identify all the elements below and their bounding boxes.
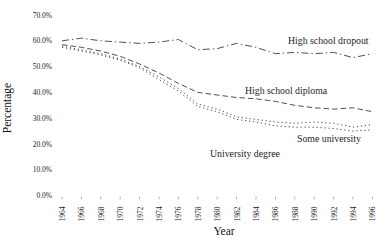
x-axis-title: Year (213, 225, 234, 237)
x-tick-label: 1990 (310, 206, 319, 221)
series-label-high-school-diploma: High school diploma (245, 85, 328, 96)
x-tick-label: 1994 (349, 206, 358, 221)
y-tick-label: 10.0% (33, 165, 52, 174)
series-label-university-degree: University degree (210, 148, 281, 159)
y-tick-label: 60.0% (33, 36, 52, 45)
x-tick-label: 1974 (155, 206, 164, 221)
chart-canvas: Percentage Year High school dropout High… (0, 0, 388, 242)
y-tick-label: 40.0% (33, 88, 52, 97)
y-tick-label: 20.0% (33, 140, 52, 149)
x-tick-label: 1992 (330, 206, 339, 221)
y-axis-title: Percentage (1, 83, 14, 133)
series-label-some-university: Some university (297, 133, 361, 144)
x-tick-label: 1988 (291, 206, 300, 221)
y-tick-label: 30.0% (33, 114, 52, 123)
x-tick-label: 1996 (368, 206, 377, 221)
x-tick-label: 1964 (58, 206, 67, 221)
x-tick-label: 1984 (252, 206, 261, 221)
series-label-high-school-dropout: High school dropout (288, 35, 369, 46)
x-tick-label: 1978 (194, 206, 203, 221)
y-tick-label: 0.0% (36, 191, 52, 200)
x-tick-label: 1972 (136, 206, 145, 221)
x-tick-label: 1970 (116, 206, 125, 221)
x-tick-label: 1986 (271, 206, 280, 221)
x-tick-label: 1966 (77, 206, 86, 221)
x-tick-label: 1982 (233, 206, 242, 221)
x-tick-label: 1968 (97, 206, 106, 221)
y-tick-label: 50.0% (33, 62, 52, 71)
x-tick-label: 1980 (213, 206, 222, 221)
y-tick-label: 70.0% (33, 11, 52, 20)
x-tick-label: 1976 (174, 206, 183, 221)
line-chart-figure: Percentage Year High school dropout High… (0, 0, 388, 242)
series-line-high-school-diploma (62, 45, 372, 112)
